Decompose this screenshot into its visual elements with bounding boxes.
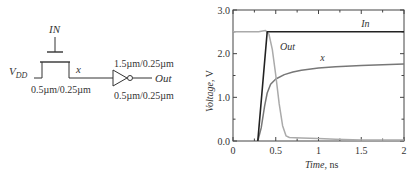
y-tick-label: 2.0 [218,48,231,59]
plot-frame [233,10,404,141]
nmos-size: 0.5µm/0.25µm [114,90,174,101]
x-tick-label: 1.5 [355,145,368,156]
data-series [233,31,404,142]
curve-labels: InOutx [280,18,370,63]
y-axis-title: Voltage, V [204,69,215,112]
inverter-triangle [113,70,127,86]
x-tick-label: 0.5 [270,145,283,156]
source-lead [34,62,42,78]
axis-ticks [233,10,404,141]
y-tick-label: 3.0 [218,5,231,16]
schematic-labels: IN VDD x 0.5µm/0.25µm 1.5µm/0.25µm 0.5µm… [9,23,174,101]
voltage-time-chart: 00.511.520.01.02.03.0 InOutx Time, ns Vo… [204,5,407,171]
curve-label-out: Out [280,41,295,52]
inverter-bubble [128,76,133,81]
pass-transistor-size: 0.5µm/0.25µm [31,84,91,95]
supply-label: VDD [9,65,28,80]
x-tick-label: 2 [402,145,407,156]
pmos-size: 1.5µm/0.25µm [114,58,174,69]
y-tick-label: 0.0 [218,136,231,147]
y-tick-label: 1.0 [218,92,231,103]
curve-label-in: In [360,18,369,29]
gate-label: IN [48,23,61,35]
curve-label-x: x [319,52,325,63]
node-x-label: x [75,63,81,75]
output-label: Out [155,72,172,84]
figure: IN VDD x 0.5µm/0.25µm 1.5µm/0.25µm 0.5µm… [0,0,418,177]
tick-labels: 00.511.520.01.02.03.0 [218,5,407,157]
x-tick-label: 1 [316,145,321,156]
x-tick-label: 0 [231,145,236,156]
x-axis-title: Time, ns [305,159,338,170]
